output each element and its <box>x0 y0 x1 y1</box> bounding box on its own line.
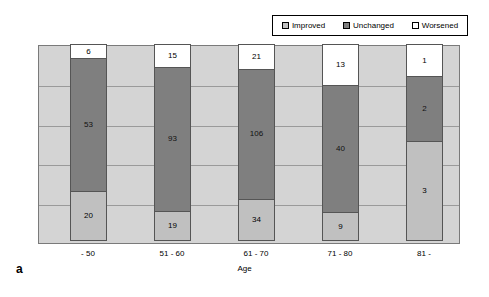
bar-value-unchanged-1: 93 <box>168 135 177 143</box>
bar-segment-worsened-1[interactable]: 15 <box>154 44 191 68</box>
bar-value-unchanged-0: 53 <box>84 121 93 129</box>
bar-segment-worsened-4[interactable]: 1 <box>406 44 443 77</box>
bar-group-4[interactable]: 1 2 3 <box>406 44 443 243</box>
x-tick-3: 71 - 80 <box>295 250 385 258</box>
bar-segment-unchanged-0[interactable]: 53 <box>70 58 107 192</box>
bar-value-unchanged-2: 106 <box>250 130 263 138</box>
bar-value-unchanged-4: 2 <box>422 105 426 113</box>
bar-group-2[interactable]: 21 106 34 <box>238 44 275 243</box>
x-tick-1: 51 - 60 <box>127 250 217 258</box>
bar-segment-unchanged-3[interactable]: 40 <box>322 85 359 213</box>
bar-group-1[interactable]: 15 93 19 <box>154 44 191 243</box>
bar-value-improved-3: 9 <box>338 223 342 231</box>
bar-segment-worsened-2[interactable]: 21 <box>238 44 275 70</box>
bar-value-unchanged-3: 40 <box>336 145 345 153</box>
bar-value-improved-1: 19 <box>168 222 177 230</box>
bar-segment-improved-2[interactable]: 34 <box>238 199 275 241</box>
bar-value-worsened-0: 6 <box>86 48 90 56</box>
bar-value-worsened-1: 15 <box>168 52 177 60</box>
plot-area: 6 53 20 15 93 19 21 106 34 <box>38 45 460 244</box>
x-tick-0: - 50 <box>43 250 133 258</box>
bar-segment-improved-0[interactable]: 20 <box>70 191 107 241</box>
bar-segment-improved-3[interactable]: 9 <box>322 212 359 241</box>
x-axis-title: Age <box>0 265 489 273</box>
bar-value-improved-2: 34 <box>252 216 261 224</box>
bar-segment-worsened-3[interactable]: 13 <box>322 44 359 86</box>
bar-segment-unchanged-2[interactable]: 106 <box>238 69 275 200</box>
bar-value-worsened-2: 21 <box>252 53 261 61</box>
bar-segment-unchanged-1[interactable]: 93 <box>154 67 191 213</box>
bar-segment-improved-1[interactable]: 19 <box>154 211 191 241</box>
bar-value-worsened-3: 13 <box>336 61 345 69</box>
bar-value-improved-4: 3 <box>422 187 426 195</box>
bar-segment-unchanged-4[interactable]: 2 <box>406 76 443 142</box>
bar-group-3[interactable]: 13 40 9 <box>322 44 359 243</box>
bar-group-0[interactable]: 6 53 20 <box>70 44 107 243</box>
x-tick-2: 61 - 70 <box>211 250 301 258</box>
panel-label: a <box>16 262 23 276</box>
bar-value-improved-0: 20 <box>84 212 93 220</box>
bar-segment-worsened-0[interactable]: 6 <box>70 44 107 59</box>
x-tick-4: 81 - <box>379 250 469 258</box>
bar-segment-improved-4[interactable]: 3 <box>406 141 443 241</box>
bar-value-worsened-4: 1 <box>422 57 426 65</box>
